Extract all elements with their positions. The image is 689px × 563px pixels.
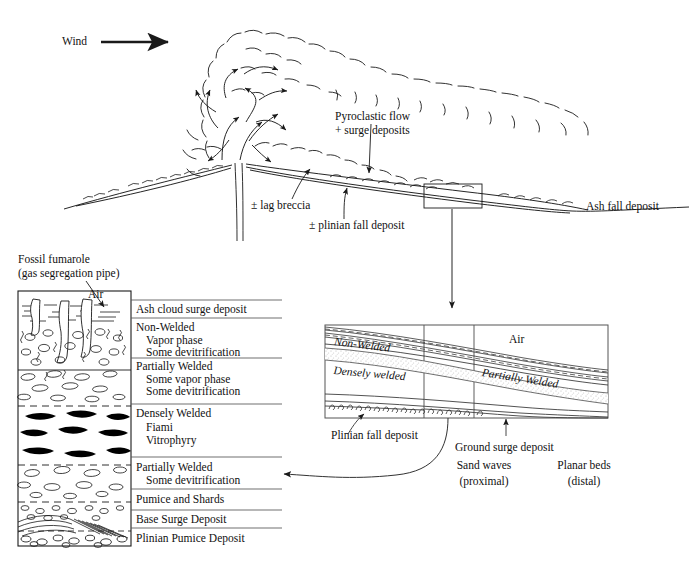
inset-plinian-fall-deposit-label: Plinian fall deposit: [331, 429, 418, 443]
upwind-apron: [64, 165, 232, 209]
pyroclastic-flow-label-line1: Pyroclastic flow: [335, 110, 410, 124]
inset-sand-waves-label-line2: (proximal): [438, 475, 530, 489]
unit-sub-some-devitrification-1: Some devitrification: [146, 346, 240, 360]
column-air-label: Air: [88, 288, 103, 302]
inset-to-column-arrow: [284, 418, 448, 477]
unit-label-pumice-and-shards: Pumice and Shards: [136, 493, 224, 507]
unit-sub-fiami: Fiami: [146, 421, 173, 435]
lag-breccia-label: ± lag breccia: [251, 199, 310, 213]
fossil-fumarole-title-line1: Fossil fumarole: [18, 253, 90, 267]
inset-planar-beds-label-line2: (distal): [538, 475, 630, 489]
inset-ground-surge-deposit-label: Ground surge deposit: [455, 441, 554, 455]
wind-label: Wind: [62, 35, 87, 49]
unit-label-partially-welded-2: Partially Welded: [136, 461, 212, 475]
eruption-plume: [183, 30, 588, 181]
leader-lag-breccia: [292, 169, 310, 199]
unit-sub-vitrophyry: Vitrophyry: [146, 434, 196, 448]
unit-label-base-surge-deposit: Base Surge Deposit: [136, 513, 227, 527]
pyroclastic-flow-label-line2: + surge deposits: [335, 124, 410, 138]
unit-label-non-welded: Non-Welded: [136, 321, 194, 335]
unit-sub-some-devitrification-2: Some devitrification: [146, 385, 240, 399]
figure-canvas: Wind Pyroclastic flow + surge deposits ±…: [0, 0, 689, 563]
inset-sand-waves-label-line1: Sand waves: [438, 459, 530, 473]
inset-planar-beds-label-line1: Planar beds: [538, 459, 630, 473]
plume-circulation-arrows: [196, 67, 287, 162]
unit-label-partially-welded-1: Partially Welded: [136, 360, 212, 374]
unit-label-densely-welded: Densely Welded: [136, 407, 211, 421]
fossil-fumarole-title-line2: (gas segregation pipe): [18, 267, 120, 281]
leader-plinian-fall: [344, 188, 347, 219]
plinian-fall-deposit-label: ± plinian fall deposit: [309, 219, 404, 233]
unit-sub-some-devitrification-3: Some devitrification: [146, 474, 240, 488]
unit-label-plinian-pumice-deposit: Plinian Pumice Deposit: [136, 532, 245, 546]
unit-label-ash-cloud-surge: Ash cloud surge deposit: [136, 303, 247, 317]
eruption-conduit: [235, 163, 243, 241]
ash-fall-deposit-label: Ash fall deposit: [586, 200, 659, 214]
inset-air-label: Air: [509, 333, 524, 347]
